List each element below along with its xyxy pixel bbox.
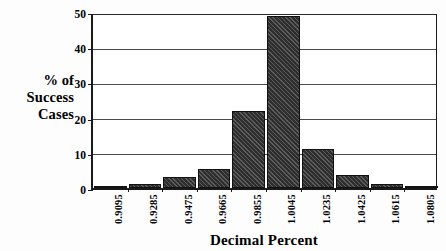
bar [336,175,369,188]
x-axis-tick-mark [197,188,198,192]
x-axis-tick-mark [128,188,129,192]
plot-area: 01020304050 [91,14,437,190]
x-axis-tick-label: 0.9475 [183,194,194,224]
x-axis-tick-label: 1.0805 [425,194,436,224]
bar [198,169,231,188]
x-axis-tick-mark [266,188,267,192]
chart-title [91,0,437,2]
bar [232,111,265,188]
y-axis-tick-mark [88,190,93,191]
y-axis-tick-label: 40 [75,43,87,55]
x-axis-tick-mark [370,188,371,192]
bars-group [93,14,436,188]
bar [94,186,127,188]
x-axis-tick-mark [335,188,336,192]
y-axis-tick-label: 30 [75,78,87,90]
x-axis-tick-mark [231,188,232,192]
x-axis-tick-label: 1.0615 [390,194,401,224]
x-axis-tick-label: 1.0045 [286,194,297,224]
y-axis-tick-label: 0 [80,184,86,196]
x-axis-tick-mark [162,188,163,192]
x-axis-tick-label: 0.9665 [217,194,228,224]
y-axis-tick-label: 10 [75,149,87,161]
x-axis-tick-mark [301,188,302,192]
bar [129,184,162,188]
x-axis-tick-label: 0.9095 [113,194,124,224]
bar [267,16,300,188]
bar [371,184,404,188]
x-axis-tick-label: 0.9855 [252,194,263,224]
bar [405,186,438,188]
x-axis-tick-label: 1.0425 [356,194,367,224]
y-axis-title-line-2: Success [0,89,74,106]
bar [302,149,335,188]
x-axis-tick-label: 1.0235 [321,194,332,224]
histogram-chart: % of Success Cases 01020304050 0.90950.9… [0,0,446,251]
y-axis-tick-label: 20 [75,114,87,126]
y-axis-title: % of Success Cases [0,72,74,123]
x-axis-title: Decimal Percent [91,232,437,249]
y-axis-tick-label: 50 [75,8,87,20]
x-axis-tick-label: 0.9285 [148,194,159,224]
x-axis-tick-mark [404,188,405,192]
bar [163,177,196,188]
y-axis-title-line-3: Cases [0,106,74,123]
y-axis-title-line-1: % of [0,72,74,89]
